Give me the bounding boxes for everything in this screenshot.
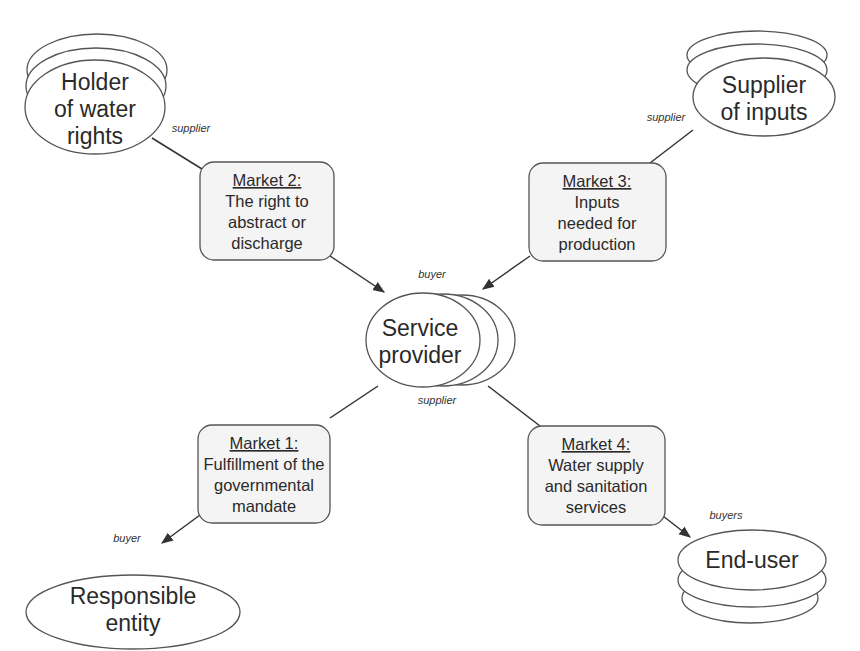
node-end-user: End-user xyxy=(678,530,826,623)
responsible-role-label: buyer xyxy=(113,532,142,544)
provider-role-bottom: supplier xyxy=(418,394,458,406)
market-3-line-1: Inputs xyxy=(575,193,620,211)
market-3-line-3: production xyxy=(558,235,635,253)
link-provider-market4 xyxy=(488,386,540,426)
market-2-title: Market 2: xyxy=(233,171,302,189)
market-2-line-2: abstract or xyxy=(228,213,306,231)
market-4-line-2: and sanitation xyxy=(545,477,648,495)
link-supplier-market3 xyxy=(650,130,693,163)
market-3-line-2: needed for xyxy=(558,214,637,232)
market-3-title: Market 3: xyxy=(563,172,632,190)
arrow-market1-responsible xyxy=(162,515,200,543)
link-holder-market2 xyxy=(152,138,202,169)
market-1-box: Market 1: Fulfillment of the governmenta… xyxy=(198,425,330,523)
provider-label-line-2: provider xyxy=(378,342,461,368)
node-supplier-of-inputs: Supplier of inputs xyxy=(687,31,835,136)
market-4-line-1: Water supply xyxy=(548,456,644,474)
link-provider-market1 xyxy=(330,386,378,418)
provider-label-line-1: Service xyxy=(382,315,459,341)
supplier-role-label: supplier xyxy=(647,111,687,123)
market-1-line-3: mandate xyxy=(232,497,296,515)
holder-label-line-1: Holder xyxy=(61,69,129,95)
holder-label-line-3: rights xyxy=(67,123,123,149)
end-user-label: End-user xyxy=(705,547,799,573)
market-3-box: Market 3: Inputs needed for production xyxy=(529,163,666,261)
node-service-provider: Service provider xyxy=(366,293,515,387)
holder-role-label: supplier xyxy=(172,122,212,134)
arrow-market4-enduser xyxy=(663,516,690,537)
supplier-label-line-2: of inputs xyxy=(721,99,808,125)
responsible-label-line-2: entity xyxy=(106,610,161,636)
provider-role-top: buyer xyxy=(418,268,447,280)
arrow-market2-provider xyxy=(330,256,384,292)
market-2-box: Market 2: The right to abstract or disch… xyxy=(200,162,334,260)
market-diagram: Holder of water rights supplier Supplier… xyxy=(0,0,860,651)
market-1-line-2: governmental xyxy=(214,476,314,494)
supplier-label-line-1: Supplier xyxy=(722,72,807,98)
market-2-line-1: The right to xyxy=(225,192,308,210)
market-2-line-3: discharge xyxy=(231,234,303,252)
responsible-label-line-1: Responsible xyxy=(70,583,197,609)
market-1-line-1: Fulfillment of the xyxy=(203,455,324,473)
market-1-title: Market 1: xyxy=(230,434,299,452)
end-user-role-label: buyers xyxy=(709,509,743,521)
arrow-market3-provider xyxy=(483,256,530,289)
market-4-line-3: services xyxy=(566,498,627,516)
market-4-box: Market 4: Water supply and sanitation se… xyxy=(528,426,665,525)
holder-label-line-2: of water xyxy=(54,96,136,122)
market-4-title: Market 4: xyxy=(562,435,631,453)
node-holder-of-water-rights: Holder of water rights xyxy=(25,34,167,154)
node-responsible-entity: Responsible entity xyxy=(26,575,240,649)
